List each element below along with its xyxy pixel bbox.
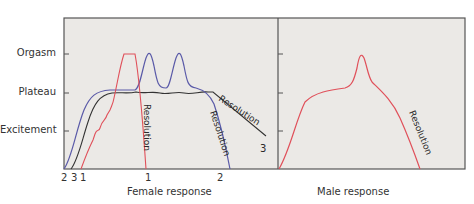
y-label-excitement: Excitement	[0, 124, 56, 135]
male-response-title: Male response	[317, 186, 389, 197]
x-start-label-3: 3	[71, 172, 77, 183]
y-label-orgasm: Orgasm	[0, 47, 56, 58]
x-end-label-2: 2	[217, 172, 223, 183]
x-start-label-2: 2	[61, 172, 67, 183]
female-response-title: Female response	[127, 186, 212, 197]
male-panel	[278, 18, 465, 169]
x-start-label-1: 1	[80, 172, 86, 183]
x-end-label-1: 1	[145, 172, 151, 183]
curve-3-end-label: 3	[260, 143, 266, 154]
resolution-label-red: Resolution	[142, 104, 152, 151]
y-label-plateau: Plateau	[0, 86, 56, 97]
